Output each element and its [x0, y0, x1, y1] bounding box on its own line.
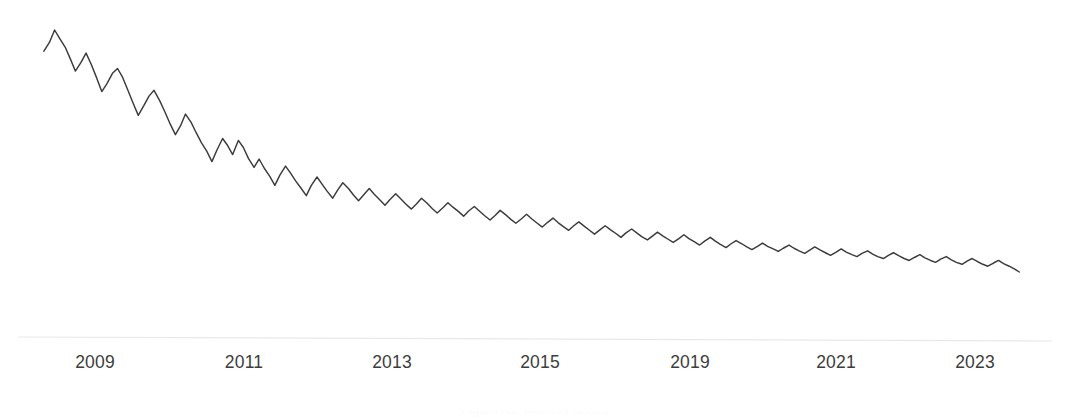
x-axis-tick-label: 2013	[372, 352, 412, 373]
x-axis-line	[18, 337, 1052, 341]
x-axis-tick-label-group: 2009201120132015201920212023	[0, 352, 1069, 378]
x-axis-tick-label: 2009	[75, 352, 115, 373]
cut-off-caption-text: Figure A1. Monthly series	[461, 411, 608, 417]
chart-figure: 2009201120132015201920212023 Figure A1. …	[0, 0, 1069, 417]
x-axis-tick-label: 2015	[520, 352, 560, 373]
cut-off-caption: Figure A1. Monthly series	[0, 411, 1069, 417]
x-axis-tick-label: 2021	[816, 352, 856, 373]
x-axis-tick-label: 2023	[955, 352, 995, 373]
series-line	[44, 30, 1019, 272]
x-axis-tick-label: 2011	[225, 352, 263, 373]
x-axis-tick-label: 2019	[670, 352, 710, 373]
